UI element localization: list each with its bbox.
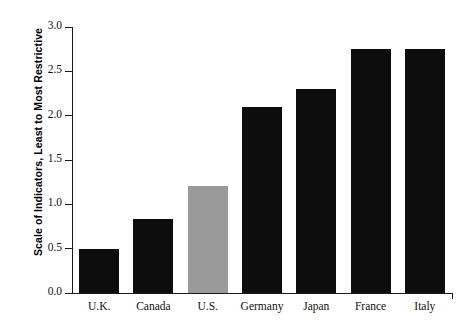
- y-axis-tick-mark: [65, 248, 72, 249]
- bar-uk: [79, 249, 119, 293]
- y-axis-tick-label: 0.0: [32, 285, 62, 297]
- bar-germany: [242, 107, 282, 293]
- x-axis-tick-label: Italy: [380, 300, 470, 312]
- bar-italy: [405, 49, 445, 293]
- y-axis-tick-label: 1.0: [32, 196, 62, 208]
- x-axis-end-tick: [452, 293, 453, 299]
- y-axis-tick-label: 3.0: [32, 19, 62, 31]
- y-axis-tick-mark: [65, 293, 72, 294]
- plot-area: [72, 27, 452, 293]
- bar-us: [188, 186, 228, 293]
- x-axis-line: [72, 293, 453, 294]
- y-axis-tick-mark: [65, 27, 72, 28]
- bar-canada: [133, 219, 173, 293]
- bar-japan: [296, 89, 336, 293]
- y-axis-tick-mark: [65, 71, 72, 72]
- y-axis-tick-mark: [65, 204, 72, 205]
- y-axis-tick-label: 2.5: [32, 63, 62, 75]
- y-axis-tick-label: 0.5: [32, 241, 62, 253]
- y-axis-tick-label: 1.5: [32, 152, 62, 164]
- y-axis-tick-mark: [65, 115, 72, 116]
- chart-canvas: Scale of Indicators, Least to Most Restr…: [0, 0, 474, 336]
- y-axis-tick-label: 2.0: [32, 108, 62, 120]
- y-axis-tick-mark: [65, 160, 72, 161]
- bar-france: [351, 49, 391, 293]
